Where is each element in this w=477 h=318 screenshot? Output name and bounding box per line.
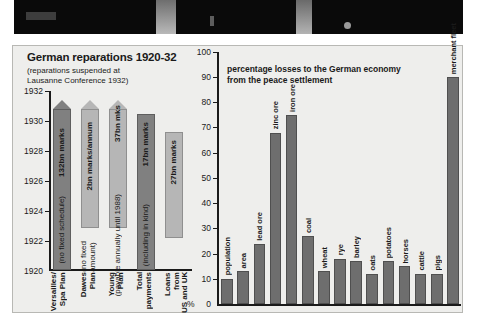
- y-tick-label: 1932: [13, 86, 43, 96]
- photo-figure-right: [296, 0, 312, 34]
- photo-strip: [0, 0, 477, 40]
- bar-label-horses: horses: [401, 239, 410, 264]
- bar-horses[interactable]: [399, 266, 411, 304]
- y-tick-label: 40: [183, 198, 211, 208]
- bar-label-merchant-fleet: merchant fleet: [449, 23, 458, 74]
- bar-label-pigs: pigs: [433, 255, 442, 270]
- bar-arrow-icon: [81, 100, 99, 109]
- bar-iron-ore[interactable]: [286, 115, 298, 304]
- bar-label-cattle: cattle: [417, 251, 426, 271]
- bar-total-payments[interactable]: 17bn marks (including in kind): [137, 114, 155, 270]
- bar-area[interactable]: [237, 271, 249, 304]
- left-chart-subtitle: (reparations suspended at Lausanne Confe…: [27, 66, 128, 85]
- bar-amount-label: 2bn marks/annum: [85, 122, 94, 190]
- bar-label-zinc-ore: zinc ore: [271, 101, 280, 129]
- right-chart: percentage losses to the German economy …: [199, 46, 464, 314]
- subtitle-line-1: (reparations suspended at: [27, 66, 120, 75]
- bar-label-oats: oats: [368, 255, 377, 270]
- chart-panel: German reparations 1920-32 (reparations …: [12, 45, 463, 313]
- bar-note-label: (no fixed schedule): [57, 196, 66, 264]
- bar-label-area: area: [239, 253, 248, 268]
- bar-merchant-fleet[interactable]: [447, 77, 459, 304]
- bar-label-iron-ore: iron ore: [288, 84, 297, 112]
- bar-amount-label: 17bn marks: [141, 122, 150, 166]
- x-label-young: Young Plan: [108, 272, 125, 296]
- bar-label-rye: rye: [336, 244, 345, 255]
- bar-note-label: (no fixed amount): [80, 241, 97, 272]
- bar-zinc-ore[interactable]: [270, 133, 282, 304]
- left-chart-y-axis-labels: 1932 1930 1928 1926 1924 1922 1920: [13, 91, 43, 271]
- x-label-dawes: Dawes Plan: [80, 272, 97, 297]
- bar-label-potatoes: potatoes: [384, 227, 393, 258]
- bar-young-plan[interactable]: 37bn mks (payable annually until 1988): [109, 100, 127, 270]
- x-label-total: Total payments: [136, 272, 153, 309]
- bar-arrow-icon: [53, 100, 71, 109]
- x-label-versailles: Versailles/ Spa Plan: [50, 272, 67, 311]
- bar-amount-label: 27bn marks: [169, 140, 178, 184]
- y-tick-label: 1928: [13, 146, 43, 156]
- percent-symbol: %: [187, 299, 195, 309]
- y-tick-label: 1926: [13, 176, 43, 186]
- left-chart-title: German reparations 1920-32: [27, 51, 177, 63]
- bar-amount-label: 132bn marks: [57, 128, 66, 177]
- bar-dawes-plan[interactable]: 2bn marks/annum (no fixed amount): [81, 100, 99, 270]
- right-chart-x-axis: [217, 304, 461, 306]
- bar-pigs[interactable]: [431, 274, 443, 304]
- bar-population[interactable]: [221, 279, 233, 304]
- photo-highlight: [344, 22, 351, 29]
- left-chart-x-axis-labels: Versailles/ Spa Plan Dawes Plan Young Pl…: [49, 272, 192, 314]
- bar-label-lead-ore: lead ore: [255, 212, 264, 241]
- bar-label-coal: coal: [304, 218, 313, 233]
- right-chart-plot-area: populationarealead orezinc oreiron oreco…: [219, 52, 461, 304]
- bar-barley[interactable]: [350, 261, 362, 304]
- photo-highlight-2: [210, 16, 214, 26]
- photo-detail: [26, 12, 56, 20]
- y-tick-label: 30: [183, 223, 211, 233]
- left-chart-plot-area: 132bn marks (no fixed schedule) 2bn mark…: [49, 91, 191, 270]
- y-tick-label: 100: [183, 47, 211, 57]
- bar-label-wheat: wheat: [320, 247, 329, 268]
- page-root: German reparations 1920-32 (reparations …: [0, 0, 477, 318]
- bar-wheat[interactable]: [318, 271, 330, 304]
- y-tick-label: 90: [183, 72, 211, 82]
- bar-cattle[interactable]: [415, 274, 427, 304]
- bar-note-label: (including in kind): [141, 204, 150, 266]
- bar-coal[interactable]: [302, 236, 314, 304]
- bar-loans-us-uk[interactable]: 27bn marks: [165, 132, 183, 270]
- bar-label-barley: barley: [352, 236, 361, 258]
- bar-versailles-spa-plan[interactable]: 132bn marks (no fixed schedule): [53, 100, 71, 270]
- y-tick-label: 60: [183, 148, 211, 158]
- bar-oats[interactable]: [366, 274, 378, 304]
- y-tick-label: 80: [183, 97, 211, 107]
- bar-label-population: population: [223, 237, 232, 275]
- bar-potatoes[interactable]: [383, 261, 395, 304]
- y-tick-label: 70: [183, 122, 211, 132]
- subtitle-line-2: Lausanne Conference 1932): [27, 76, 128, 85]
- bar-lead-ore[interactable]: [254, 244, 266, 304]
- y-tick-label: 1920: [13, 266, 43, 276]
- photo-image: [14, 0, 463, 34]
- y-tick-label: 50: [183, 173, 211, 183]
- bar-amount-label: 37bn mks: [113, 105, 122, 142]
- y-tick-label: 20: [183, 249, 211, 259]
- y-tick-label: 1924: [13, 206, 43, 216]
- y-tick-label: 1930: [13, 116, 43, 126]
- y-tick-label: 1922: [13, 236, 43, 246]
- y-tick-label: 10: [183, 274, 211, 284]
- photo-figure-left: [156, 0, 176, 34]
- left-chart: German reparations 1920-32 (reparations …: [13, 46, 199, 314]
- bar-rye[interactable]: [334, 259, 346, 304]
